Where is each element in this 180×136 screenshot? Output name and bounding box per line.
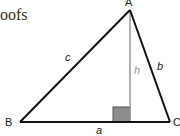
- side-c: [20, 10, 130, 122]
- right-angle-marker: [113, 107, 130, 122]
- vertex-label-c: C: [173, 116, 180, 128]
- vertex-label-a: A: [125, 0, 133, 8]
- side-label-a: a: [96, 124, 102, 136]
- altitude-label-h: h: [134, 64, 140, 76]
- vertex-label-b: B: [5, 116, 12, 128]
- side-label-c: c: [65, 51, 71, 63]
- side-label-b: b: [157, 60, 163, 72]
- triangle-diagram: A B C c b a h: [0, 0, 180, 136]
